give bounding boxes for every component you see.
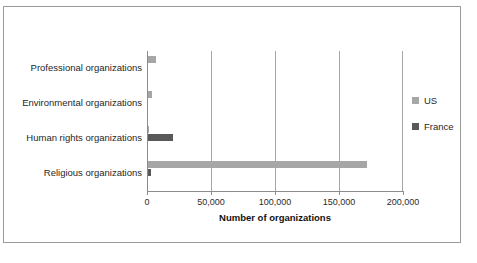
chart-frame: Professional organizations Environmental… (3, 6, 461, 243)
gridline-100000 (275, 51, 276, 191)
tick-label-100000: 100,000 (259, 197, 292, 207)
gridline-200000 (402, 51, 403, 191)
tick-label-150000: 150,000 (323, 197, 356, 207)
legend: US France (412, 95, 454, 147)
plot-area (147, 51, 403, 191)
tick-label-50000: 50,000 (197, 197, 225, 207)
gridline-150000 (339, 51, 340, 191)
legend-item-france: France (412, 121, 454, 132)
category-label-human-rights: Human rights organizations (4, 132, 142, 143)
value-axis-vertical-line (147, 51, 148, 192)
tick-mark-100000 (275, 191, 276, 195)
gridline-50000 (211, 51, 212, 191)
bar-professional-us (147, 56, 156, 63)
category-label-environmental: Environmental organizations (4, 97, 142, 108)
tick-mark-50000 (211, 191, 212, 195)
category-label-professional: Professional organizations (4, 62, 142, 73)
tick-label-200000: 200,000 (387, 197, 420, 207)
legend-swatch-france-icon (412, 123, 419, 130)
bar-human-rights-france (147, 134, 173, 141)
legend-label-us: US (424, 95, 437, 106)
legend-label-france: France (424, 121, 454, 132)
tick-mark-0 (147, 191, 148, 195)
tick-mark-150000 (339, 191, 340, 195)
legend-item-us: US (412, 95, 454, 106)
x-axis-title: Number of organizations (147, 212, 403, 223)
bar-religious-us (147, 161, 367, 168)
tick-label-0: 0 (144, 197, 149, 207)
tick-mark-200000 (403, 191, 404, 195)
legend-swatch-us-icon (412, 97, 419, 104)
category-label-religious: Religious organizations (4, 167, 142, 178)
